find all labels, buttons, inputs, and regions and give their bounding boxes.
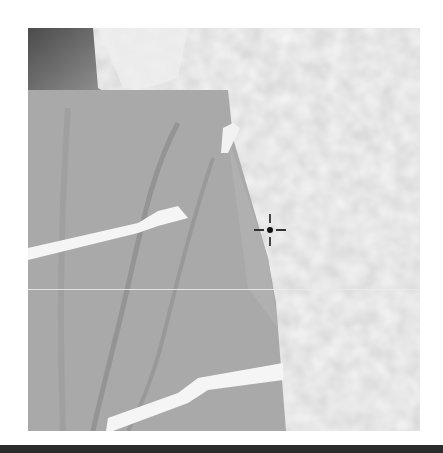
scan-line xyxy=(28,289,420,290)
crosshair-icon xyxy=(254,214,286,246)
camera-view xyxy=(28,28,420,431)
scene-image xyxy=(28,28,420,431)
bottom-bar xyxy=(0,445,443,453)
